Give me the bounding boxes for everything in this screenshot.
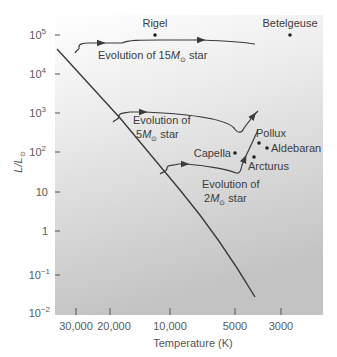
star-pollux	[257, 141, 261, 145]
svg-text:105: 105	[29, 27, 46, 41]
label-track-2msun-l1: Evolution of	[202, 178, 260, 190]
star-rigel	[153, 33, 157, 37]
svg-text:10: 10	[36, 186, 48, 198]
svg-text:Capella: Capella	[194, 147, 232, 159]
hr-diagram: 105 104 103 102 10 1 10−1 10−2 30,000 20…	[0, 0, 337, 357]
star-capella	[233, 151, 237, 155]
svg-text:3000: 3000	[269, 320, 293, 332]
label-track-5msun-l2: 5M⊙ star	[136, 128, 179, 142]
label-track-5msun-l1: Evolution of	[133, 114, 191, 126]
svg-text:Aldebaran: Aldebaran	[271, 142, 321, 154]
x-axis-title: Temperature (K)	[153, 337, 232, 349]
svg-text:20,000: 20,000	[97, 320, 131, 332]
x-tick-labels: 30,000 20,000 10,000 5000 3000	[59, 320, 293, 332]
svg-text:Betelgeuse: Betelgeuse	[262, 17, 317, 29]
svg-text:30,000: 30,000	[59, 320, 93, 332]
svg-text:104: 104	[29, 66, 46, 80]
y-axis-title: L/L⊙	[12, 151, 26, 172]
svg-text:10,000: 10,000	[153, 320, 187, 332]
star-betelgeuse	[288, 33, 292, 37]
svg-text:Pollux: Pollux	[256, 127, 286, 139]
star-arcturus	[252, 155, 256, 159]
svg-text:10−1: 10−1	[29, 267, 51, 281]
svg-text:1: 1	[42, 225, 48, 237]
star-aldebaran	[265, 146, 269, 150]
y-tick-labels: 105 104 103 102 10 1 10−1 10−2	[29, 27, 51, 319]
svg-text:102: 102	[29, 144, 46, 158]
svg-text:Arcturus: Arcturus	[248, 160, 289, 172]
svg-text:5000: 5000	[223, 320, 247, 332]
label-track-2msun-l2: 2M⊙ star	[204, 192, 247, 206]
label-track-15msun: Evolution of 15M⊙ star	[98, 49, 208, 63]
svg-text:103: 103	[29, 105, 46, 119]
svg-text:Rigel: Rigel	[142, 17, 167, 29]
svg-text:10−2: 10−2	[29, 305, 51, 319]
